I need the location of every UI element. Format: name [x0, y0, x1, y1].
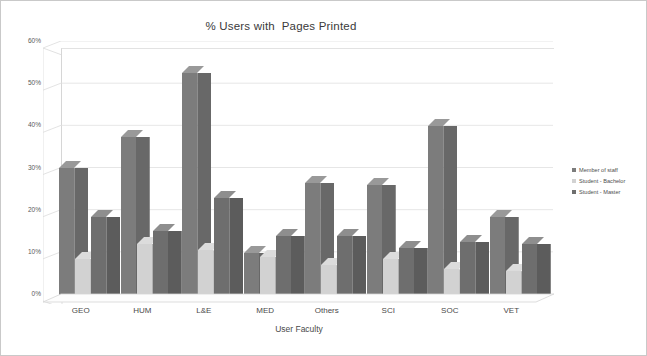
bar-top	[276, 229, 298, 236]
bar-group	[121, 48, 168, 301]
bar-top	[182, 66, 204, 73]
plot-area	[43, 41, 553, 309]
bar-top	[399, 241, 421, 248]
x-axis-tick-label: VET	[476, 306, 546, 315]
x-axis-tick-label: SOC	[415, 306, 485, 315]
y-axis-tick-label: 40%	[7, 121, 41, 128]
bar-face	[121, 137, 136, 301]
bar-face	[59, 168, 74, 301]
bar-face	[214, 198, 229, 301]
chart-legend: Member of staffStudent - BachelorStudent…	[572, 167, 646, 200]
bar[interactable]	[428, 126, 443, 301]
bar[interactable]	[121, 137, 136, 301]
bar-top	[428, 119, 450, 126]
bar-top	[59, 161, 81, 168]
bar[interactable]	[367, 185, 382, 301]
x-axis-labels: GEOHUML&EMEDOthersSCISOCVET	[43, 306, 555, 322]
bar-group	[428, 48, 475, 301]
bar-top	[460, 235, 482, 242]
y-axis: 0%10%20%30%40%50%60%	[1, 41, 41, 309]
bar-top	[153, 224, 175, 231]
x-axis-title: User Faculty	[43, 324, 555, 334]
y-axis-tick-label: 50%	[7, 79, 41, 86]
x-axis-tick-label: MED	[230, 306, 300, 315]
bar-group	[490, 48, 537, 301]
y-axis-tick-label: 10%	[7, 248, 41, 255]
bar-face	[367, 185, 382, 301]
bar[interactable]	[214, 198, 229, 301]
legend-item[interactable]: Member of staff	[572, 167, 646, 173]
bar-top	[337, 229, 359, 236]
legend-swatch-icon	[572, 190, 576, 194]
x-axis-tick-label: Others	[292, 306, 362, 315]
legend-label: Member of staff	[579, 167, 618, 173]
bar-top	[91, 210, 113, 217]
bar-group	[59, 48, 106, 301]
x-axis-tick-label: L&E	[169, 306, 239, 315]
bar-group	[305, 48, 352, 301]
legend-swatch-icon	[572, 179, 576, 183]
x-axis-tick-label: SCI	[353, 306, 423, 315]
chart-frame: % Users with Pages Printed 0%10%20%30%40…	[0, 0, 647, 356]
bar-face	[428, 126, 443, 301]
y-axis-tick-label: 30%	[7, 164, 41, 171]
bar-group	[244, 48, 291, 301]
bar-group	[182, 48, 229, 301]
x-axis-tick-label: HUM	[107, 306, 177, 315]
bar-series-container	[43, 41, 553, 309]
bar-face	[182, 73, 197, 301]
bar-top	[522, 237, 544, 244]
bar-top	[367, 178, 389, 185]
bar[interactable]	[59, 168, 74, 301]
x-axis-tick-label: GEO	[46, 306, 116, 315]
y-axis-tick-label: 60%	[7, 37, 41, 44]
y-axis-tick-label: 20%	[7, 206, 41, 213]
bar-top	[490, 210, 512, 217]
bar-side	[229, 198, 243, 301]
bar-top	[121, 130, 143, 137]
legend-label: Student - Bachelor	[579, 178, 625, 184]
bar[interactable]	[182, 73, 197, 301]
bar-face	[305, 183, 320, 301]
bar-group	[367, 48, 414, 301]
legend-item[interactable]: Student - Bachelor	[572, 178, 646, 184]
legend-label: Student - Master	[579, 189, 620, 195]
bar-top	[305, 176, 327, 183]
bar-top	[214, 191, 236, 198]
chart-title: % Users with Pages Printed	[1, 20, 561, 32]
bar[interactable]	[305, 183, 320, 301]
legend-item[interactable]: Student - Master	[572, 189, 646, 195]
y-axis-tick-label: 0%	[7, 290, 41, 297]
legend-swatch-icon	[572, 168, 576, 172]
